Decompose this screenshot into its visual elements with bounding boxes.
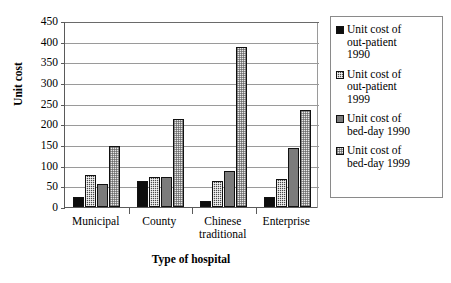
y-tick-label-200: 200 [24,119,58,130]
y-axis-title: Unit cost [12,44,24,124]
bar-group-chinese-traditional [200,21,247,207]
bar [236,47,247,207]
y-tick-mark-200 [61,125,65,126]
legend-swatch-icon-4 [336,147,344,155]
bar-group-municipal [73,21,120,207]
bar [300,110,311,207]
y-tick-mark-450 [61,22,65,23]
bar [97,184,108,207]
legend-label-2: Unit cost ofout-patient1999 [347,68,401,106]
y-tick-label-300: 300 [24,78,58,89]
x-tick-mark [129,208,130,214]
bar [200,201,211,207]
bar [85,175,96,207]
bar [137,181,148,207]
y-tick-mark-300 [61,84,65,85]
bar [73,197,84,207]
bar [149,177,160,207]
y-tick-label-100: 100 [24,161,58,172]
y-tick-label-350: 350 [24,57,58,68]
legend-swatch-icon-1 [336,26,344,34]
bar [276,179,287,207]
y-tick-mark-100 [61,167,65,168]
y-tick-mark-400 [61,43,65,44]
y-tick-mark-350 [61,63,65,64]
plot-right-edge [317,22,318,208]
x-tick-label-enterprise: Enterprise [243,215,329,228]
legend-swatch-icon-3 [336,115,344,123]
bar [173,119,184,207]
bar [224,171,235,207]
bar [288,148,299,207]
y-tick-mark-250 [61,105,65,106]
legend-label-4: Unit cost ofbed-day 1999 [347,144,410,169]
legend-label-1: Unit cost ofout-patient1990 [347,23,401,61]
y-tick-label-450: 450 [24,16,58,27]
x-axis-title: Type of hospital [64,253,318,265]
y-tick-label-250: 250 [24,99,58,110]
legend-item-2[interactable]: Unit cost ofout-patient1999 [336,68,439,106]
y-tick-label-400: 400 [24,37,58,48]
y-tick-label-50: 50 [24,181,58,192]
bar [109,146,120,207]
bar [161,177,172,207]
legend-item-3[interactable]: Unit cost ofbed-day 1990 [336,112,439,137]
y-tick-mark-0 [61,208,65,209]
legend-label-3: Unit cost ofbed-day 1990 [347,112,410,137]
plot-area [64,22,318,208]
y-tick-mark-150 [61,146,65,147]
y-axis-tick-labels: 050100150200250300350400450 [24,0,58,283]
x-tick-mark [256,208,257,214]
bar [212,181,223,207]
x-tick-mark [192,208,193,214]
bar-group-enterprise [264,21,311,207]
bar [264,197,275,207]
bar-chart: Unit cost 050100150200250300350400450 Ty… [0,0,451,283]
y-tick-mark-50 [61,187,65,188]
legend-swatch-icon-2 [336,71,344,79]
bar-group-county [137,21,184,207]
y-tick-label-150: 150 [24,140,58,151]
legend-item-4[interactable]: Unit cost ofbed-day 1999 [336,144,439,169]
y-tick-label-0: 0 [24,202,58,213]
legend-item-1[interactable]: Unit cost ofout-patient1990 [336,23,439,61]
chart-legend: Unit cost ofout-patient1990Unit cost ofo… [330,16,443,198]
